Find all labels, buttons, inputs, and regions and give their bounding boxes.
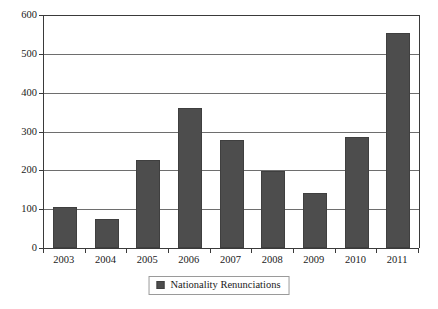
x-tick-label-2005: 2005 [137, 255, 158, 266]
bar-2006 [178, 108, 202, 248]
y-tick-label-100: 100 [21, 204, 37, 215]
y-tick-label-300: 300 [21, 126, 37, 137]
x-tick-2006 [168, 248, 169, 253]
y-tick-label-400: 400 [21, 87, 37, 98]
y-tick-label-0: 0 [32, 243, 37, 254]
legend-label: Nationality Renunciations [171, 280, 281, 291]
x-axis-group: 200320042005200620072008200920102011 [43, 248, 418, 270]
x-tick-label-2004: 2004 [95, 255, 116, 266]
x-tick-2010 [335, 248, 336, 253]
legend-swatch-icon [157, 281, 165, 289]
x-tick-label-2007: 2007 [220, 255, 241, 266]
bar-2005 [136, 160, 160, 248]
x-tick-end [418, 248, 419, 253]
x-tick-label-2008: 2008 [262, 255, 283, 266]
x-tick-label-2009: 2009 [303, 255, 324, 266]
bar-chart-figure: 0100200300400500600 20032004200520062007… [0, 0, 438, 309]
y-tick-label-600: 600 [21, 10, 37, 21]
y-tick-label-500: 500 [21, 49, 37, 60]
bar-2003 [53, 207, 77, 248]
bar-2007 [220, 140, 244, 248]
x-tick-2008 [251, 248, 252, 253]
bars-group [44, 15, 419, 248]
plot-area: 0100200300400500600 [43, 15, 420, 248]
y-tick-label-200: 200 [21, 165, 37, 176]
bar-2008 [261, 171, 285, 248]
x-tick-2003 [43, 248, 44, 253]
bar-2004 [95, 219, 119, 248]
x-tick-2011 [376, 248, 377, 253]
x-tick-label-2011: 2011 [387, 255, 408, 266]
x-tick-2007 [210, 248, 211, 253]
x-tick-2004 [85, 248, 86, 253]
x-tick-label-2010: 2010 [345, 255, 366, 266]
x-tick-label-2006: 2006 [178, 255, 199, 266]
x-tick-2005 [126, 248, 127, 253]
x-tick-label-2003: 2003 [53, 255, 74, 266]
x-tick-2009 [293, 248, 294, 253]
bar-2011 [386, 33, 410, 248]
bar-2009 [303, 193, 327, 248]
chart-legend: Nationality Renunciations [149, 276, 290, 295]
bar-2010 [345, 137, 369, 248]
